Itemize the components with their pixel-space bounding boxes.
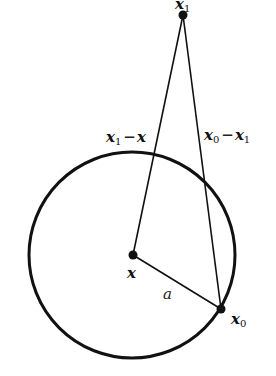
- point-x0: [217, 305, 226, 314]
- point-x: [129, 251, 138, 260]
- edge-x-to-x0: [133, 255, 221, 309]
- diagram-canvas: x1 x1−x x0−x1 x a x0: [0, 0, 276, 376]
- label-radius-a: a: [163, 285, 172, 303]
- label-x1: x1: [174, 0, 190, 14]
- label-x0-minus-x1: x0−x1: [203, 126, 250, 145]
- label-x: x: [126, 264, 137, 282]
- label-x1-minus-x: x1−x: [105, 128, 147, 147]
- edge-x1-to-x0: [183, 15, 221, 309]
- label-x0: x0: [230, 310, 246, 329]
